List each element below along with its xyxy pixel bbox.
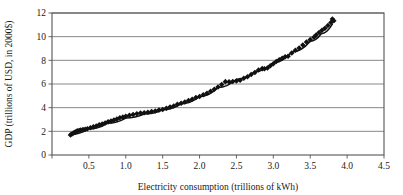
- y-tick-label-8: 8: [41, 56, 46, 66]
- x-tick-label-3.0: 3.0: [267, 161, 279, 171]
- x-axis-tick-labels: 0.51.01.52.02.53.03.54.04.5: [83, 161, 390, 171]
- x-tick-label-4.0: 4.0: [341, 161, 353, 171]
- x-tick-label-1.0: 1.0: [120, 161, 132, 171]
- x-tick-label-2.5: 2.5: [231, 161, 243, 171]
- x-tick-label-1.5: 1.5: [157, 161, 169, 171]
- y-tick-label-10: 10: [37, 32, 47, 42]
- x-tick-label-4.5: 4.5: [378, 161, 390, 171]
- x-tick-label-2.0: 2.0: [194, 161, 206, 171]
- y-tick-label-6: 6: [41, 79, 46, 89]
- y-tick-label-12: 12: [37, 8, 47, 18]
- gdp-vs-electricity-scatter-chart: 0.51.01.52.02.53.03.54.04.5 024681012 El…: [0, 0, 403, 195]
- y-axis-title: GDP (trillions of USD, in 2000$): [4, 21, 15, 148]
- y-tick-label-0: 0: [41, 150, 46, 160]
- chart-figure: 0.51.01.52.02.53.03.54.04.5 024681012 El…: [0, 0, 403, 195]
- x-tick-label-3.5: 3.5: [304, 161, 316, 171]
- x-axis-title: Electricity consumption (trillions of kW…: [138, 182, 298, 193]
- y-tick-label-4: 4: [41, 103, 46, 113]
- y-tick-label-2: 2: [41, 127, 46, 137]
- x-tick-label-0.5: 0.5: [83, 161, 95, 171]
